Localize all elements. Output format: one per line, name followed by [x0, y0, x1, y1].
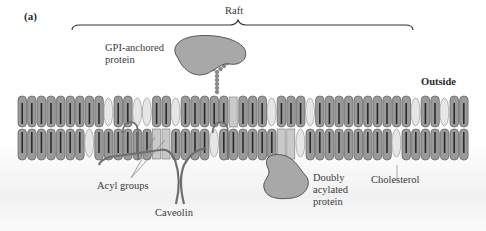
raft-diagram: (a) Raft Outside GPI-anchored protein Ac…	[0, 0, 486, 231]
caveolin-label: Caveolin	[155, 207, 193, 219]
raft-brace	[72, 20, 413, 30]
membrane-illustration	[0, 0, 486, 231]
doubly-acylated-protein-label: Doubly acylated protein	[313, 172, 348, 208]
cholesterol-label: Cholesterol	[371, 174, 419, 186]
gpi-anchored-protein-shape	[175, 36, 246, 75]
panel-label: (a)	[24, 10, 37, 22]
doubly-acylated-protein-shape	[264, 155, 309, 199]
raft-label: Raft	[225, 5, 243, 17]
lipid-bilayer	[18, 96, 468, 160]
acyl-groups-label: Acyl groups	[97, 180, 149, 192]
outside-label: Outside	[421, 76, 456, 88]
gpi-protein-label: GPI-anchored protein	[105, 42, 164, 66]
